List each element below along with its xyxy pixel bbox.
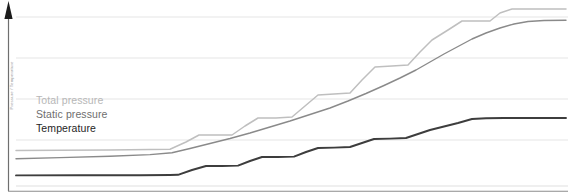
- chart-legend: Total pressure Static pressure Temperatu…: [36, 93, 108, 135]
- legend-item-total-pressure: Total pressure: [36, 93, 108, 107]
- pressure-temperature-line-chart: Pressure / Temperature Total pressure St…: [0, 0, 568, 193]
- up-arrow-icon: [4, 1, 12, 19]
- series-line-static-pressure: [16, 20, 566, 159]
- legend-item-temperature: Temperature: [36, 121, 108, 135]
- legend-item-static-pressure: Static pressure: [36, 107, 108, 121]
- y-axis-label: Pressure / Temperature: [9, 56, 14, 116]
